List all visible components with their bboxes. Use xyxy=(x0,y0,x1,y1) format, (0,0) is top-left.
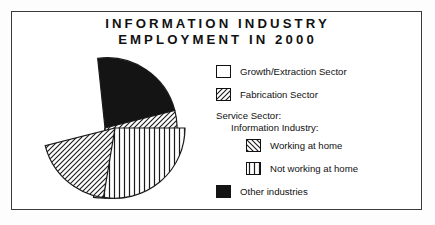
legend-label-working-at-home: Working at home xyxy=(270,140,342,151)
legend-label-growth-extraction-sector: Growth/Extraction Sector xyxy=(240,66,347,77)
legend-item-not-working-at-home[interactable]: Not working at home xyxy=(216,157,421,180)
diagonal-hatch-square-icon xyxy=(216,88,231,101)
vertical-hatch-square-icon xyxy=(246,162,261,175)
legend-heading-information-industry: Information Industry: xyxy=(216,122,421,134)
legend-label-other-industries: Other industries xyxy=(240,186,308,197)
legend-item-working-at-home[interactable]: Working at home xyxy=(216,134,421,157)
legend-label-fabrication-sector: Fabrication Sector xyxy=(240,89,318,100)
black-square-icon xyxy=(216,185,231,198)
legend-label-not-working-at-home: Not working at home xyxy=(270,163,358,174)
chart-figure: INFORMATION INDUSTRY EMPLOYMENT IN 2000 xyxy=(0,0,435,225)
backslash-hatch-square-icon xyxy=(246,139,261,152)
legend-item-growth-extraction-sector[interactable]: Growth/Extraction Sector xyxy=(216,60,421,83)
white-square-icon xyxy=(216,65,231,78)
pie-chart xyxy=(22,50,202,208)
pie-chart-svg xyxy=(22,50,202,208)
legend-heading-service-sector: Service Sector: xyxy=(216,110,421,122)
legend-item-fabrication-sector[interactable]: Fabrication Sector xyxy=(216,83,421,106)
chart-legend: Growth/Extraction Sector Fabrication Sec… xyxy=(216,60,421,203)
pie-exploded-service-group xyxy=(45,128,185,198)
legend-item-other-industries[interactable]: Other industries xyxy=(216,180,421,203)
pie-slice-not-working-at-home xyxy=(104,128,186,198)
